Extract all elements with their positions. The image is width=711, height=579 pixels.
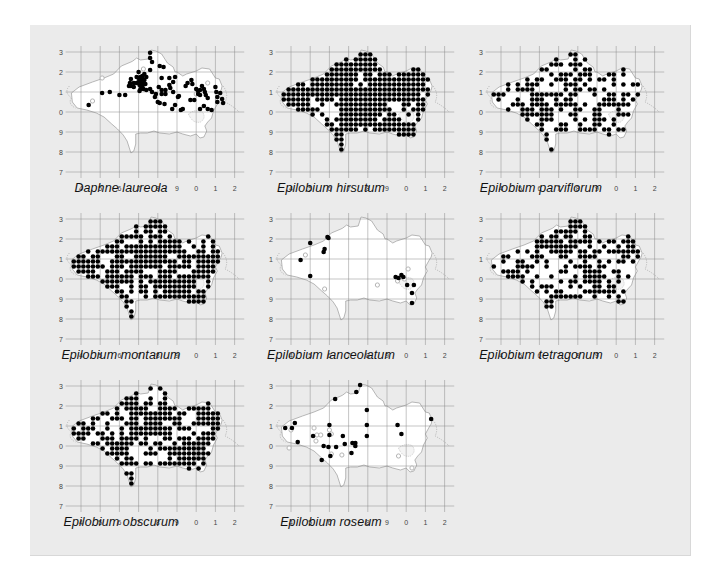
record-dot: [392, 122, 397, 127]
record-dot: [211, 436, 216, 441]
record-dot: [568, 92, 573, 97]
record-dot: [134, 411, 139, 416]
record-dot: [353, 444, 358, 449]
record-dot: [201, 244, 206, 249]
record-dot: [416, 117, 421, 122]
record-dot: [296, 92, 301, 97]
record-dot: [358, 102, 363, 107]
record-dot: [158, 274, 163, 279]
record-dot: [110, 451, 115, 456]
record-dot: [520, 264, 525, 269]
record-dot: [387, 92, 392, 97]
record-dot: [530, 284, 535, 289]
record-dot: [110, 264, 115, 269]
record-dot: [339, 107, 344, 112]
record-dot: [597, 259, 602, 264]
y-tick-label: 3: [479, 216, 483, 223]
record-dot: [306, 97, 311, 102]
record-dot: [86, 264, 91, 269]
record-dot: [100, 446, 105, 451]
record-dot: [344, 82, 349, 87]
record-dot: [182, 254, 187, 259]
y-tick-label: 8: [479, 316, 483, 323]
record-dot: [96, 254, 101, 259]
record-dot: [168, 244, 173, 249]
record-dot: [540, 244, 545, 249]
record-dot: [139, 289, 144, 294]
record-dot: [182, 264, 187, 269]
record-dot: [373, 117, 378, 122]
y-tick-label: 9: [479, 296, 483, 303]
map-title: Epilobium parviflorum: [436, 181, 646, 195]
record-dot: [100, 249, 105, 254]
record-dot: [559, 279, 564, 284]
record-dot: [568, 244, 573, 249]
record-dot: [325, 87, 330, 92]
record-dot: [588, 254, 593, 259]
y-tick-label: 3: [269, 49, 273, 56]
record-dot: [296, 87, 301, 92]
record-dot: [206, 436, 211, 441]
record-dot: [115, 441, 120, 446]
record-dot: [334, 92, 339, 97]
record-dot: [597, 102, 602, 107]
record-dot: [310, 112, 315, 117]
record-dot: [148, 401, 153, 406]
record-dot: [334, 137, 339, 142]
record-dot: [134, 406, 139, 411]
record-dot: [96, 264, 101, 269]
record-dot: [124, 451, 129, 456]
record-dot: [406, 92, 411, 97]
record-dot: [110, 436, 115, 441]
record-dot: [626, 249, 631, 254]
record-dot: [506, 269, 511, 274]
record-dot: [334, 62, 339, 67]
record-dot: [172, 259, 177, 264]
record-dot: [311, 434, 316, 439]
record-dot: [153, 289, 158, 294]
record-dot: [291, 102, 296, 107]
record-dot: [540, 102, 545, 107]
record-dot: [358, 82, 363, 87]
record-dot: [568, 259, 573, 264]
record-dot: [120, 264, 125, 269]
record-dot: [328, 454, 333, 459]
record-dot: [564, 87, 569, 92]
record-dot: [416, 112, 421, 117]
record-dot: [339, 147, 344, 152]
record-dot: [592, 112, 597, 117]
record-dot: [192, 244, 197, 249]
record-dot: [148, 421, 153, 426]
record-dot: [334, 132, 339, 137]
record-dot: [592, 92, 597, 97]
record-dot: [525, 87, 530, 92]
record-dot: [402, 127, 407, 132]
map-panel-epilobium-parviflorum: 3210987456789012Epilobium parviflorum: [436, 27, 646, 194]
record-dot: [354, 62, 359, 67]
record-dot: [168, 436, 173, 441]
y-tick-label: 9: [269, 463, 273, 470]
record-dot: [129, 441, 134, 446]
record-dot: [139, 426, 144, 431]
record-dot: [330, 67, 335, 72]
record-dot: [172, 284, 177, 289]
record-dot: [168, 86, 173, 91]
record-dot: [392, 117, 397, 122]
record-dot: [100, 411, 105, 416]
record-dot: [120, 259, 125, 264]
record-dot: [144, 88, 149, 93]
record-dot: [540, 92, 545, 97]
record-dot: [322, 247, 327, 252]
record-dot: [192, 441, 197, 446]
record-dot: [568, 72, 573, 77]
record-dot: [416, 107, 421, 112]
record-dot: [192, 461, 197, 466]
record-dot: [626, 112, 631, 117]
record-dot: [86, 103, 91, 108]
y-tick-label: 8: [269, 316, 273, 323]
record-dot: [148, 396, 153, 401]
record-dot: [172, 406, 177, 411]
record-dot: [330, 92, 335, 97]
record-dot: [100, 91, 105, 96]
record-dot: [192, 274, 197, 279]
